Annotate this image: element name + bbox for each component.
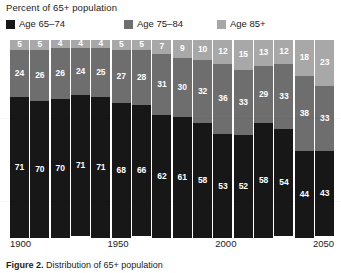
bar-segment-age-75-84[interactable]: 33 — [315, 86, 334, 151]
bar-2040[interactable]: 183844 — [295, 40, 314, 238]
bar-segment-age-85-plus[interactable]: 7 — [152, 40, 171, 54]
bar-segment-age-85-plus[interactable]: 5 — [10, 40, 29, 50]
bar-segment-age-85-plus[interactable]: 12 — [274, 40, 293, 64]
bar-segment-value: 26 — [35, 71, 44, 80]
bar-segment-age-85-plus[interactable]: 5 — [30, 40, 49, 50]
bar-segment-age-65-74[interactable]: 62 — [152, 115, 171, 238]
legend-item-age-65-74: Age 65–74 — [6, 19, 65, 29]
bar-segment-age-65-74[interactable]: 71 — [10, 97, 29, 238]
bar-segment-value: 18 — [300, 53, 309, 62]
bar-segment-age-65-74[interactable]: 44 — [295, 151, 314, 238]
bar-segment-age-65-74[interactable]: 61 — [173, 117, 192, 238]
bar-1920[interactable]: 42670 — [51, 40, 70, 238]
bar-segment-age-85-plus[interactable]: 13 — [254, 40, 273, 66]
bar-1910[interactable]: 52670 — [30, 40, 49, 238]
bar-segment-age-65-74[interactable]: 53 — [213, 134, 232, 238]
bar-segment-age-75-84[interactable]: 31 — [152, 54, 171, 115]
bar-1990[interactable]: 103258 — [193, 40, 212, 238]
bar-1930[interactable]: 42471 — [71, 40, 90, 238]
axis-tick-1950: 1950 — [107, 238, 128, 249]
bar-2010[interactable]: 153352 — [234, 40, 253, 238]
bar-2030[interactable]: 123354 — [274, 40, 293, 238]
bar-segment-value: 53 — [218, 182, 227, 191]
bar-2020[interactable]: 132958 — [254, 40, 273, 238]
bar-segment-age-85-plus[interactable]: 5 — [132, 40, 151, 50]
bar-segment-value: 31 — [157, 80, 166, 89]
bar-segment-age-85-plus[interactable]: 18 — [295, 40, 314, 76]
bar-segment-value: 32 — [198, 87, 207, 96]
legend-swatch-age-65-74 — [6, 20, 15, 29]
bar-1980[interactable]: 93061 — [173, 40, 192, 238]
bar-2000[interactable]: 123653 — [213, 40, 232, 238]
bar-segment-value: 4 — [78, 40, 83, 48]
bar-segment-age-75-84[interactable]: 38 — [295, 76, 314, 151]
bar-segment-value: 24 — [15, 69, 24, 78]
bar-segment-age-85-plus[interactable]: 9 — [173, 40, 192, 58]
bar-segment-age-85-plus[interactable]: 4 — [91, 40, 110, 48]
bar-segment-age-65-74[interactable]: 54 — [274, 129, 293, 236]
bar-segment-age-65-74[interactable]: 70 — [30, 101, 49, 238]
legend-label-age-65-74: Age 65–74 — [19, 19, 65, 29]
bar-segment-age-75-84[interactable]: 25 — [91, 48, 110, 98]
bar-segment-value: 33 — [320, 114, 329, 123]
bar-segment-value: 5 — [17, 40, 22, 49]
figure-container: Percent of 65+ population Age 65–74 Age … — [0, 0, 341, 273]
bar-segment-age-75-84[interactable]: 27 — [112, 50, 131, 103]
bar-segment-value: 33 — [279, 92, 288, 101]
bar-segment-age-85-plus[interactable]: 5 — [112, 40, 131, 50]
bar-segment-value: 23 — [320, 58, 329, 67]
bar-segment-age-75-84[interactable]: 33 — [274, 64, 293, 129]
axis-tick-2050: 2050 — [313, 238, 334, 249]
bar-segment-value: 52 — [239, 182, 248, 191]
stacked-bar-plot: 5247152670426704247142571527685286673162… — [10, 40, 334, 238]
axis-tick-1900: 1900 — [10, 238, 31, 249]
bar-segment-age-65-74[interactable]: 71 — [71, 95, 90, 236]
bar-segment-value: 4 — [58, 40, 63, 48]
bar-segment-value: 10 — [198, 45, 207, 54]
bar-segment-age-75-84[interactable]: 33 — [234, 70, 253, 135]
bar-1960[interactable]: 52866 — [132, 40, 151, 238]
legend-item-age-75-84: Age 75–84 — [124, 19, 183, 29]
bar-segment-age-75-84[interactable]: 29 — [254, 66, 273, 123]
bar-segment-age-75-84[interactable]: 26 — [30, 50, 49, 101]
bar-segment-age-65-74[interactable]: 71 — [91, 97, 110, 238]
bar-segment-value: 27 — [117, 72, 126, 81]
bar-segment-age-65-74[interactable]: 58 — [254, 123, 273, 238]
bar-segment-age-75-84[interactable]: 24 — [71, 48, 90, 96]
bar-segment-value: 38 — [300, 109, 309, 118]
bar-1940[interactable]: 42571 — [91, 40, 110, 238]
bar-segment-age-85-plus[interactable]: 4 — [71, 40, 90, 48]
bar-segment-value: 62 — [157, 172, 166, 181]
bar-segment-age-75-84[interactable]: 28 — [132, 50, 151, 105]
bar-segment-age-75-84[interactable]: 30 — [173, 58, 192, 117]
bar-segment-age-85-plus[interactable]: 23 — [315, 40, 334, 86]
bar-segment-age-65-74[interactable]: 66 — [132, 105, 151, 236]
bar-segment-age-65-74[interactable]: 58 — [193, 123, 212, 238]
bar-segment-age-85-plus[interactable]: 12 — [213, 40, 232, 64]
bar-segment-age-65-74[interactable]: 52 — [234, 135, 253, 238]
bar-segment-value: 5 — [38, 40, 43, 49]
bar-segment-age-65-74[interactable]: 68 — [112, 103, 131, 238]
bar-segment-value: 5 — [119, 40, 124, 49]
bar-segment-value: 12 — [279, 47, 288, 56]
bar-1950[interactable]: 52768 — [112, 40, 131, 238]
bar-1900[interactable]: 52471 — [10, 40, 29, 238]
bar-segment-value: 71 — [15, 163, 24, 172]
chart-legend: Age 65–74 Age 75–84 Age 85+ — [6, 19, 336, 33]
bar-segment-value: 70 — [35, 165, 44, 174]
chart-title: Percent of 65+ population — [6, 2, 117, 13]
bar-2050[interactable]: 233343 — [315, 40, 334, 238]
bar-segment-age-75-84[interactable]: 36 — [213, 64, 232, 135]
bar-segment-age-65-74[interactable]: 43 — [315, 151, 334, 236]
bar-segment-age-85-plus[interactable]: 15 — [234, 40, 253, 70]
bar-segment-age-75-84[interactable]: 26 — [51, 48, 70, 99]
bar-segment-value: 5 — [139, 40, 144, 49]
bar-segment-age-65-74[interactable]: 70 — [51, 99, 70, 238]
bar-segment-age-75-84[interactable]: 32 — [193, 60, 212, 123]
legend-label-age-85-plus: Age 85+ — [230, 19, 266, 29]
bar-segment-age-75-84[interactable]: 24 — [10, 50, 29, 98]
bar-segment-age-85-plus[interactable]: 4 — [51, 40, 70, 48]
bar-segment-value: 68 — [117, 166, 126, 175]
bar-segment-age-85-plus[interactable]: 10 — [193, 40, 212, 60]
bar-1970[interactable]: 73162 — [152, 40, 171, 238]
